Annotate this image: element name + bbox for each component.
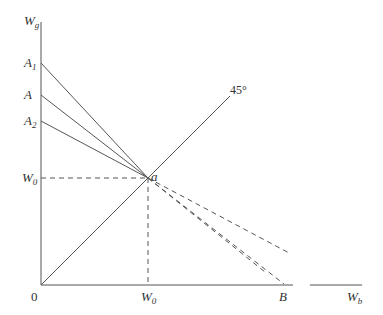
diagram-canvas (0, 0, 383, 315)
tick-W0-y-main: W (22, 170, 33, 185)
tick-W0-y-sub: 0 (33, 177, 38, 187)
tick-A: A (24, 88, 32, 101)
tick-W0-y: W0 (22, 171, 37, 187)
point-a-label: a (151, 170, 158, 183)
line-A-to-a (41, 95, 148, 178)
x-axis-label-main: W (347, 289, 358, 304)
origin-label: 0 (31, 290, 38, 303)
dashed-extension-upper (148, 178, 291, 254)
tick-A2-sub: 2 (32, 120, 37, 130)
line-a1-to-a (41, 63, 148, 178)
dashed-extension-lower (148, 178, 265, 272)
tick-W0-x-main: W (141, 289, 152, 304)
y-axis-label-sub: g (35, 20, 40, 30)
tick-A2: A2 (24, 114, 36, 130)
dashed-extension-middle (148, 178, 284, 284)
tick-A1-main: A (24, 55, 32, 70)
45-degree-line (41, 96, 230, 285)
tick-A-main: A (24, 87, 32, 102)
y-axis-label-main: W (24, 13, 35, 28)
y-axis-label: Wg (24, 14, 39, 30)
budget-line-diagram: Wg A1 A A2 W0 a 45° 0 W0 B Wb (0, 0, 383, 315)
tick-W0-x-sub: 0 (152, 296, 157, 306)
x-axis-label-sub: b (358, 296, 363, 306)
tick-B-main: B (279, 289, 287, 304)
line-a2-to-a (41, 121, 148, 178)
tick-W0-x: W0 (141, 290, 156, 306)
tick-B: B (279, 290, 287, 303)
x-axis-label: Wb (347, 290, 362, 306)
tick-A1: A1 (24, 56, 36, 72)
tick-A2-main: A (24, 113, 32, 128)
tick-A1-sub: 1 (32, 62, 37, 72)
angle-label: 45° (230, 84, 247, 96)
